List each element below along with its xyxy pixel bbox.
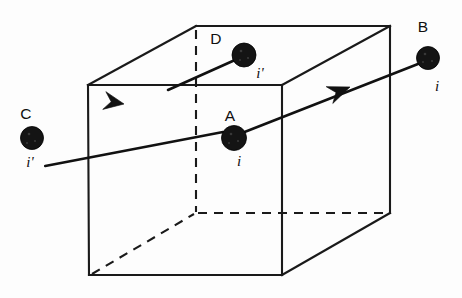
node-b-label: B — [418, 18, 429, 35]
node-b-sphere-group — [417, 47, 440, 70]
ray-lower-arrowhead — [103, 92, 126, 113]
node-c-sphere-group — [21, 127, 44, 150]
node-d-sphere-group — [232, 43, 256, 67]
node-b-current-label: i — [435, 78, 439, 94]
node-a-sphere — [222, 126, 247, 151]
node-c-label: C — [20, 105, 31, 122]
node-c-current-label: i' — [26, 154, 34, 170]
cube-edge-depth-top-left — [88, 26, 196, 85]
figure-container: C i' D i' A i B i — [0, 0, 462, 298]
cube-edge-depth-bottom-right — [282, 213, 390, 275]
node-a-label: A — [225, 107, 236, 124]
node-d-current-label: i' — [256, 65, 264, 81]
cube-edge-hidden-bottom-left-diagonal — [92, 214, 194, 274]
cube-edge-front-left — [88, 85, 89, 275]
cube-diagram-svg: C i' D i' A i B i — [0, 0, 462, 298]
cube-edge-depth-top-right — [282, 26, 390, 85]
node-c-sphere — [21, 127, 44, 150]
ray-upper-group — [242, 64, 418, 133]
node-a-sphere-group — [222, 126, 247, 151]
node-a-current-label: i — [237, 153, 241, 169]
node-d-label: D — [210, 30, 221, 47]
ray-upper-line — [242, 64, 418, 133]
node-d-sphere — [232, 43, 256, 67]
node-b-sphere — [417, 47, 440, 70]
